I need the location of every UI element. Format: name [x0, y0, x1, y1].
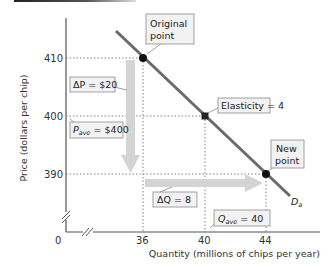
new-point-label-line1: New [276, 143, 297, 154]
x-tick-36: 36 [136, 235, 149, 246]
x-tick-40: 40 [198, 235, 211, 246]
y-axis-label: Price (dollars per chip) [18, 74, 29, 181]
y-tick-400: 400 [44, 111, 63, 122]
new-point-label-line2: point [275, 155, 300, 166]
x-tick-0: 0 [55, 235, 61, 246]
x-axis-label: Quantity (millions of chips per year) [149, 248, 320, 259]
demand-elasticity-chart: Original point Elasticity = 4 New point … [0, 0, 333, 267]
original-point-marker [139, 54, 147, 62]
delta-q-label: ΔQ = 8 [157, 194, 191, 205]
original-point-label-line1: Original [150, 18, 187, 29]
delta-p-arrow [121, 60, 140, 173]
demand-curve-label: Da [291, 196, 302, 209]
y-tick-390: 390 [44, 169, 63, 180]
elasticity-label: Elasticity = 4 [221, 100, 284, 111]
new-point-marker [262, 170, 270, 178]
delta-q-arrow [145, 174, 263, 192]
y-tick-410: 410 [44, 53, 63, 64]
x-axis-break-icon [82, 228, 93, 236]
delta-p-label: ΔP = $20 [73, 79, 117, 90]
x-tick-44: 44 [259, 235, 272, 246]
original-point-label-line2: point [150, 30, 175, 41]
midpoint-marker [202, 113, 209, 120]
